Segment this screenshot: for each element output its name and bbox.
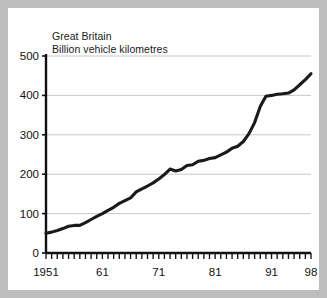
data-series-line [46,74,311,234]
gridlines [46,56,311,214]
y-tick-label: 400 [20,89,39,101]
x-tick-label: 61 [96,266,109,278]
x-tick-label: 81 [209,266,222,278]
x-axis-labels: 19516171819198 [33,266,317,278]
y-tick-label: 500 [20,50,39,62]
y-tick-label: 100 [20,208,39,220]
line-chart: 0100200300400500 19516171819198 [8,8,319,290]
y-axis-labels: 0100200300400500 [20,50,39,259]
x-tick-label: 1951 [33,266,59,278]
y-tick-label: 300 [20,129,39,141]
x-tick-label: 71 [152,266,165,278]
chart-plate: Great Britain Billion vehicle kilometres… [8,8,319,290]
x-tick-label: 98 [305,266,318,278]
figure-background: Great Britain Billion vehicle kilometres… [0,0,327,298]
y-tick-label: 0 [33,247,39,259]
y-tick-label: 200 [20,168,39,180]
x-tick-label: 91 [265,266,278,278]
